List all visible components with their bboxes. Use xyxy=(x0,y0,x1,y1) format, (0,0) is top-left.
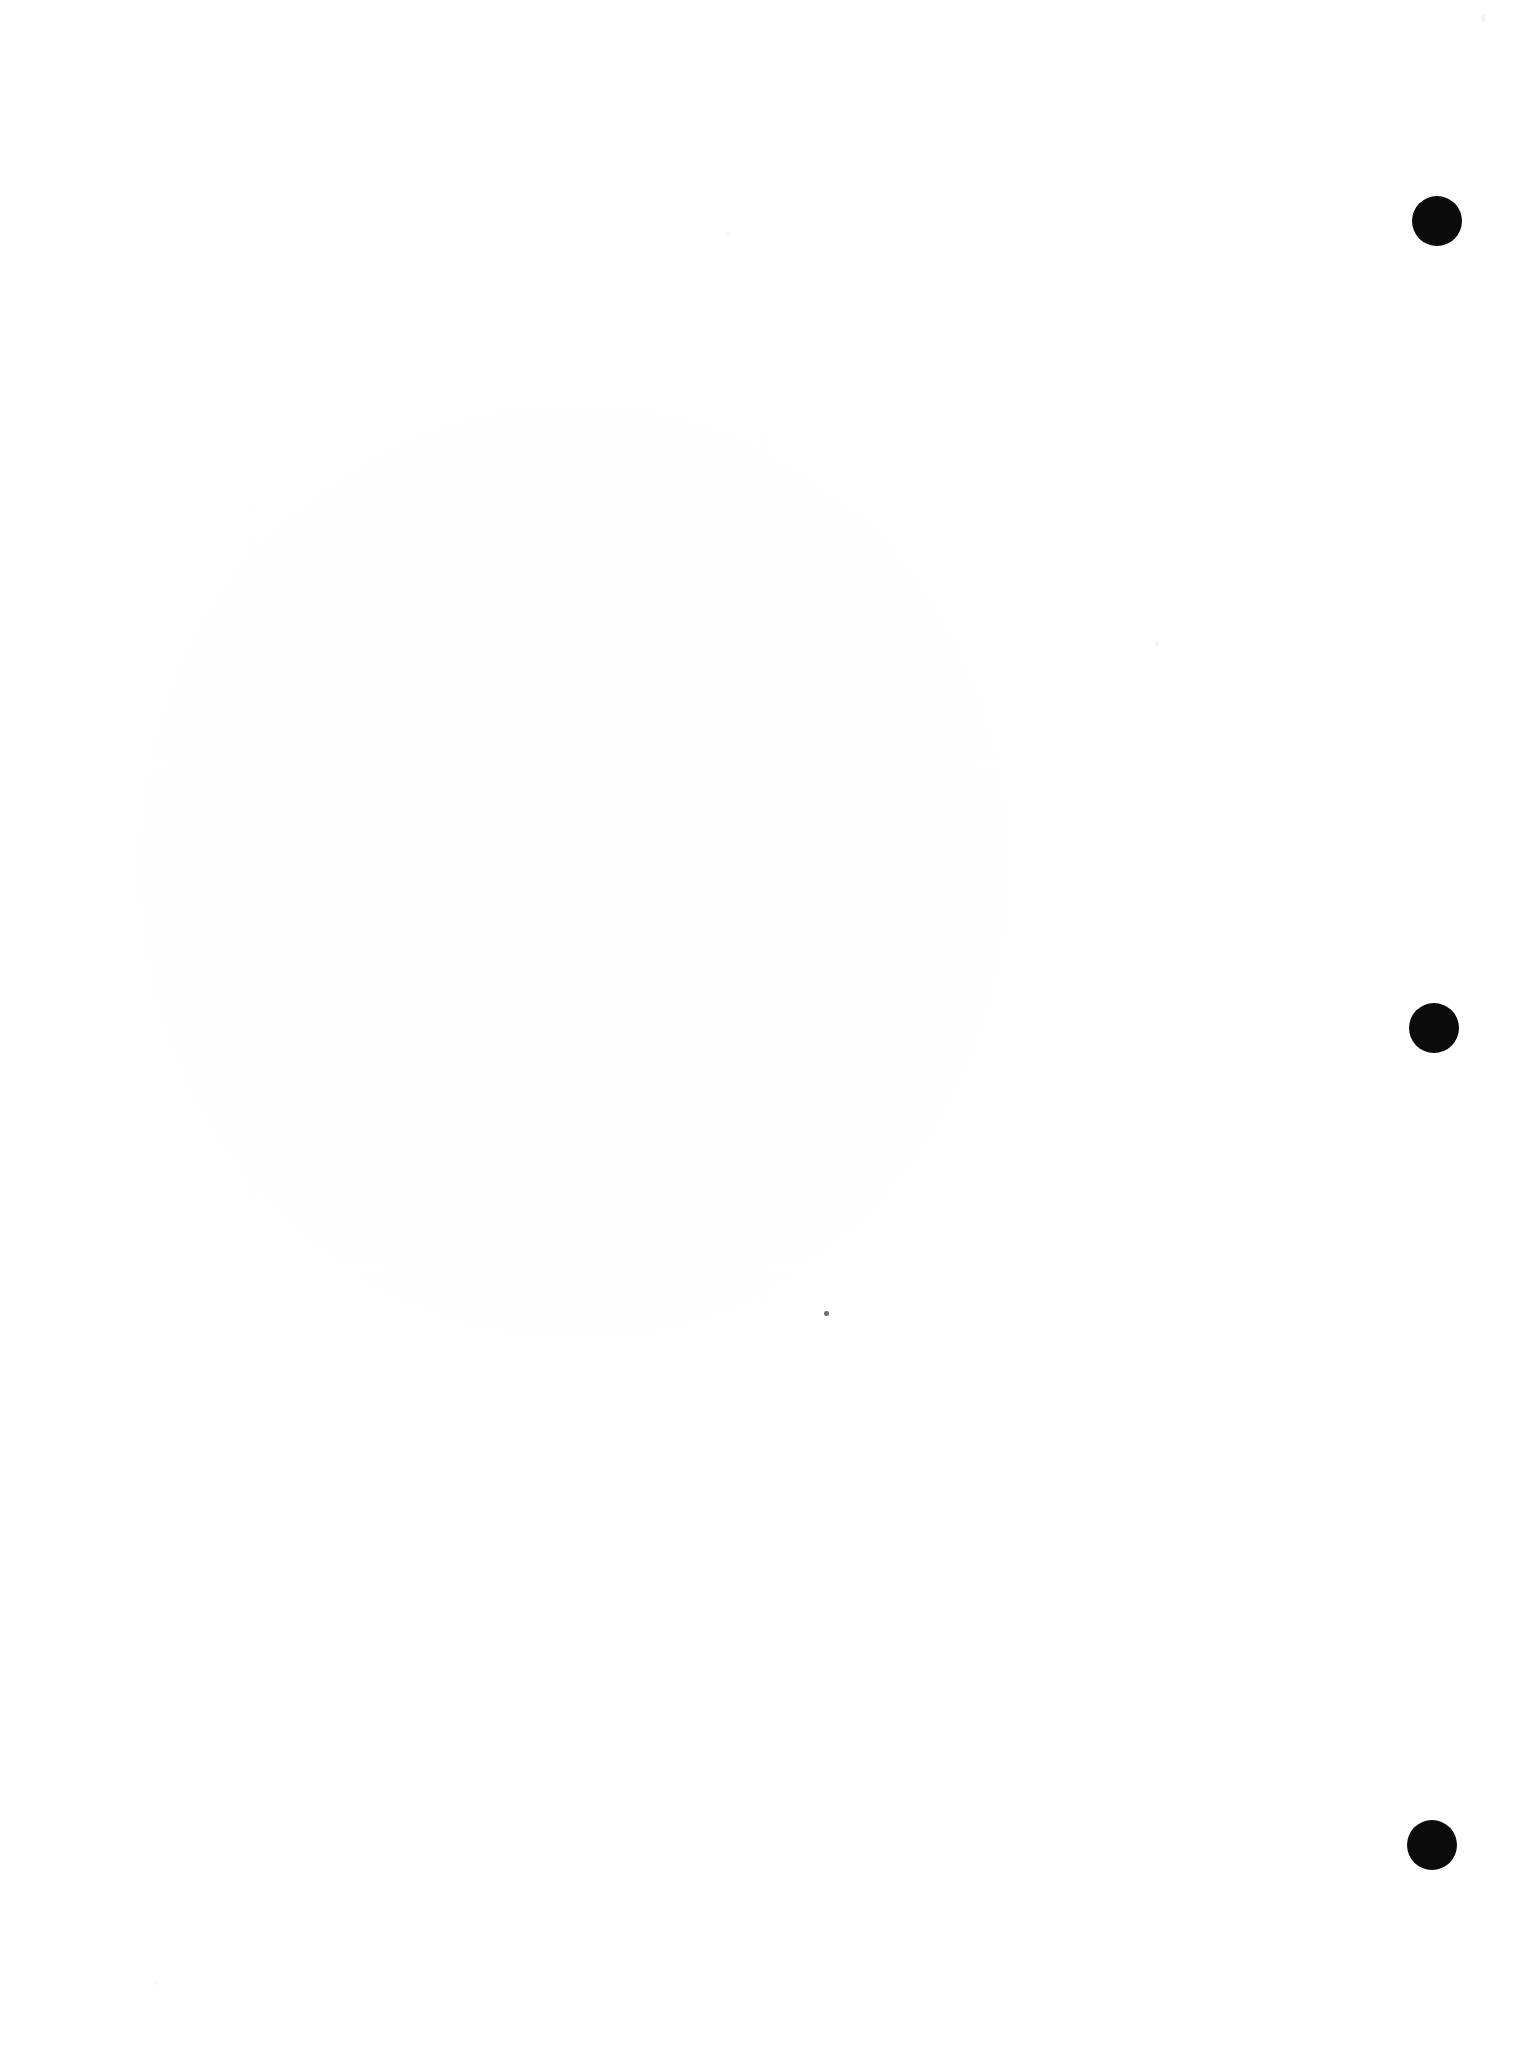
dust-speck-center xyxy=(824,1311,829,1316)
scanned-page xyxy=(0,0,1516,2069)
dust-speck-upper-right xyxy=(1155,641,1159,646)
registration-mark-bottom xyxy=(1407,1820,1457,1870)
dust-speck-lower-left xyxy=(153,1981,158,1985)
paper-surface xyxy=(0,0,1516,2069)
dust-speck-top-corner xyxy=(1481,15,1486,22)
registration-mark-top xyxy=(1412,196,1462,246)
dust-speck-upper-center xyxy=(726,232,730,236)
registration-mark-middle xyxy=(1409,1003,1459,1053)
